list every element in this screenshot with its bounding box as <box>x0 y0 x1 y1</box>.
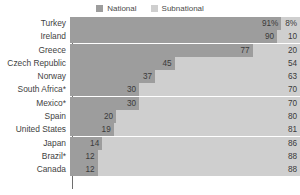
bar-value-national: 19 <box>102 123 114 136</box>
category-label: Mexico* <box>0 97 69 110</box>
bar-segment-subnational[interactable]: 63 <box>155 70 300 83</box>
bar-segment-national[interactable]: 90 <box>70 30 277 43</box>
bar-value-national: 77 <box>240 44 252 57</box>
category-label: Turkey <box>0 17 69 30</box>
bar-segment-national[interactable]: 45 <box>70 57 175 70</box>
bar-segment-subnational[interactable]: 80 <box>116 110 300 123</box>
bar-value-subnational: 8% <box>285 17 300 30</box>
chart-legend: National Subnational <box>0 2 300 15</box>
bar-segment-national[interactable]: 12 <box>70 163 98 176</box>
bar-segment-national[interactable]: 77 <box>70 44 253 57</box>
bar-value-subnational: 54 <box>288 57 300 70</box>
bar-value-national: 30 <box>127 97 139 110</box>
bar-segment-subnational[interactable]: 54 <box>175 57 300 70</box>
bar-value-national: 20 <box>104 110 116 123</box>
category-label: Ireland <box>0 30 69 43</box>
bar-track: 1288 <box>70 163 300 176</box>
bar-value-subnational: 70 <box>288 97 300 110</box>
bar-value-national: 14 <box>90 137 102 150</box>
bar-value-national: 45 <box>162 57 174 70</box>
bar-track: 1981 <box>70 123 300 136</box>
bar-row: Brazil*1288 <box>0 150 300 163</box>
bar-value-national: 90 <box>265 30 277 43</box>
bar-row: South Africa*3070 <box>0 83 300 96</box>
bar-value-national: 30 <box>127 83 139 96</box>
bar-value-subnational: 86 <box>288 137 300 150</box>
bar-segment-national[interactable]: 30 <box>70 83 139 96</box>
bar-value-subnational: 70 <box>288 83 300 96</box>
bar-track: 7720 <box>70 44 300 57</box>
bar-segment-national[interactable]: 30 <box>70 97 139 110</box>
bar-segment-subnational[interactable]: 10 <box>277 30 300 43</box>
legend-item-subnational[interactable]: Subnational <box>151 4 204 13</box>
bar-track: 91%8% <box>70 17 300 30</box>
category-label: Brazil* <box>0 150 69 163</box>
bar-track: 1486 <box>70 137 300 150</box>
bar-segment-national[interactable]: 19 <box>70 123 114 136</box>
bar-row: Czech Republic4554 <box>0 57 300 70</box>
bar-row: Greece7720 <box>0 44 300 57</box>
legend-swatch-national-icon <box>96 5 103 12</box>
category-label: Czech Republic <box>0 57 69 70</box>
bar-value-subnational: 88 <box>288 163 300 176</box>
bar-row: Mexico*3070 <box>0 97 300 110</box>
bar-value-subnational: 81 <box>288 123 300 136</box>
bar-row: Turkey91%8% <box>0 17 300 30</box>
bar-track: 3763 <box>70 70 300 83</box>
plot-area: Turkey91%8%Ireland9010Greece7720Czech Re… <box>0 17 300 195</box>
bar-row: Canada1288 <box>0 163 300 176</box>
stacked-bar-chart: National Subnational Turkey91%8%Ireland9… <box>0 0 300 195</box>
bar-segment-subnational[interactable]: 81 <box>114 123 300 136</box>
bar-segment-subnational[interactable]: 86 <box>102 137 300 150</box>
bar-track: 1288 <box>70 150 300 163</box>
bar-row: Ireland9010 <box>0 30 300 43</box>
category-label: South Africa* <box>0 83 69 96</box>
category-label: Greece <box>0 44 69 57</box>
bar-track: 4554 <box>70 57 300 70</box>
bar-value-subnational: 80 <box>288 110 300 123</box>
bar-segment-subnational[interactable]: 70 <box>139 97 300 110</box>
bar-segment-subnational[interactable]: 70 <box>139 83 300 96</box>
bar-segment-national[interactable]: 20 <box>70 110 116 123</box>
legend-label-subnational: Subnational <box>162 4 204 13</box>
bar-segment-national[interactable]: 12 <box>70 150 98 163</box>
bar-segment-subnational[interactable]: 20 <box>253 44 300 57</box>
bar-segment-national[interactable]: 37 <box>70 70 155 83</box>
bar-segment-national[interactable]: 91% <box>70 17 281 30</box>
bar-segment-subnational[interactable]: 88 <box>98 163 300 176</box>
bar-rows: Turkey91%8%Ireland9010Greece7720Czech Re… <box>0 17 300 177</box>
bar-value-subnational: 88 <box>288 150 300 163</box>
category-label: Spain <box>0 110 69 123</box>
category-label: Canada <box>0 163 69 176</box>
bar-track: 3070 <box>70 97 300 110</box>
bar-segment-national[interactable]: 14 <box>70 137 102 150</box>
bar-row: United States1981 <box>0 123 300 136</box>
bar-value-national: 91% <box>262 17 281 30</box>
category-label: United States <box>0 123 69 136</box>
bar-row: Norway3763 <box>0 70 300 83</box>
bar-track: 9010 <box>70 30 300 43</box>
legend-label-national: National <box>107 4 136 13</box>
bar-value-national: 12 <box>85 150 97 163</box>
legend-item-national[interactable]: National <box>96 4 136 13</box>
bar-value-subnational: 63 <box>288 70 300 83</box>
category-label: Japan <box>0 137 69 150</box>
bar-value-national: 37 <box>143 70 155 83</box>
bar-value-subnational: 10 <box>288 30 300 43</box>
bar-track: 2080 <box>70 110 300 123</box>
category-label: Norway <box>0 70 69 83</box>
bar-row: Japan1486 <box>0 137 300 150</box>
legend-swatch-subnational-icon <box>151 5 158 12</box>
bar-segment-subnational[interactable]: 88 <box>98 150 300 163</box>
bar-track: 3070 <box>70 83 300 96</box>
bar-value-subnational: 20 <box>288 44 300 57</box>
bar-row: Spain2080 <box>0 110 300 123</box>
bar-value-national: 12 <box>85 163 97 176</box>
bar-segment-subnational[interactable]: 8% <box>281 17 300 30</box>
